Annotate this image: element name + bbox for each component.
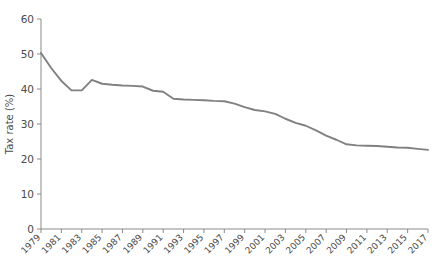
x-tick-label: 2011 bbox=[345, 232, 368, 255]
x-tick-label: 2009 bbox=[325, 232, 348, 255]
line-chart: 0102030405060 Tax rate (%) 1979198119831… bbox=[0, 0, 435, 266]
x-axis: 1979198119831985198719891991199319951997… bbox=[19, 229, 429, 256]
x-tick-label: 1991 bbox=[141, 232, 164, 255]
x-tick-label: 1993 bbox=[162, 232, 185, 255]
x-tick-label: 1989 bbox=[121, 232, 144, 255]
x-tick-label: 1999 bbox=[223, 232, 246, 255]
y-tick-label: 0 bbox=[27, 223, 34, 235]
y-tick-label: 50 bbox=[21, 48, 34, 60]
x-tick-label: 2017 bbox=[406, 232, 429, 255]
y-tick-labels: 0102030405060 bbox=[21, 13, 34, 235]
x-tick-marks bbox=[41, 229, 428, 233]
x-tick-label: 2005 bbox=[284, 232, 307, 255]
y-tick-marks bbox=[37, 19, 41, 229]
y-tick-label: 30 bbox=[21, 118, 34, 130]
x-tick-label: 1985 bbox=[80, 232, 103, 255]
x-tick-label: 2003 bbox=[264, 232, 287, 255]
x-tick-label: 2007 bbox=[304, 232, 327, 255]
x-tick-label: 1997 bbox=[202, 232, 225, 255]
data-series-line bbox=[41, 53, 428, 150]
y-axis: 0102030405060 Tax rate (%) bbox=[4, 13, 41, 235]
x-tick-label: 2013 bbox=[365, 232, 388, 255]
x-tick-label: 2001 bbox=[243, 232, 266, 255]
plot-area bbox=[41, 53, 428, 150]
x-tick-label: 2015 bbox=[386, 232, 409, 255]
y-tick-label: 40 bbox=[21, 83, 34, 95]
chart-container: 0102030405060 Tax rate (%) 1979198119831… bbox=[0, 0, 435, 266]
y-axis-title: Tax rate (%) bbox=[4, 94, 15, 156]
y-tick-label: 10 bbox=[21, 188, 34, 200]
x-tick-label: 1987 bbox=[101, 232, 124, 255]
x-tick-label: 1995 bbox=[182, 232, 205, 255]
x-tick-label: 1979 bbox=[19, 232, 42, 255]
x-tick-label: 1981 bbox=[40, 232, 63, 255]
y-tick-label: 20 bbox=[21, 153, 34, 165]
y-tick-label: 60 bbox=[21, 13, 34, 25]
x-tick-labels: 1979198119831985198719891991199319951997… bbox=[19, 232, 429, 255]
x-tick-label: 1983 bbox=[60, 232, 83, 255]
